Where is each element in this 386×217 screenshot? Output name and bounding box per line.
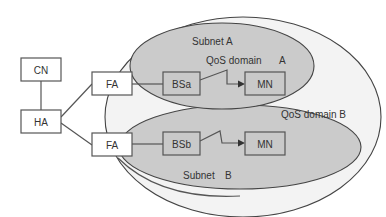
node-ha-label: HA [34, 117, 48, 128]
node-ha: HA [21, 110, 61, 133]
link-ha-fa-bottom [61, 123, 92, 145]
node-bsa: BSa [163, 72, 200, 95]
node-fa-bottom: FA [92, 133, 132, 156]
link-ha-fa-top [61, 84, 92, 117]
subnet-a-qos-label: QoS domain [206, 55, 262, 66]
node-cn: CN [21, 58, 61, 81]
subnet-b-suffix: B [225, 170, 232, 181]
node-mn-top: MN [245, 72, 285, 95]
qos-domain-b-label: QoS domain B [281, 109, 346, 120]
node-fa-top: FA [92, 72, 132, 95]
subnet-a-label: Subnet A [192, 36, 233, 47]
network-diagram: CN HA FA FA BSa MN BSb MN Subnet A QoS d… [0, 0, 386, 217]
node-mn-bottom: MN [245, 132, 285, 155]
node-cn-label: CN [34, 65, 48, 76]
subnet-b-label: Subnet [183, 170, 215, 181]
node-bsa-label: BSa [172, 79, 191, 90]
node-mn-bottom-label: MN [257, 139, 273, 150]
node-mn-top-label: MN [257, 79, 273, 90]
node-fa-top-label: FA [106, 79, 119, 90]
node-fa-bottom-label: FA [106, 140, 119, 151]
subnet-a-qos-suffix: A [279, 55, 286, 66]
node-bsb: BSb [163, 132, 200, 155]
node-bsb-label: BSb [172, 139, 191, 150]
